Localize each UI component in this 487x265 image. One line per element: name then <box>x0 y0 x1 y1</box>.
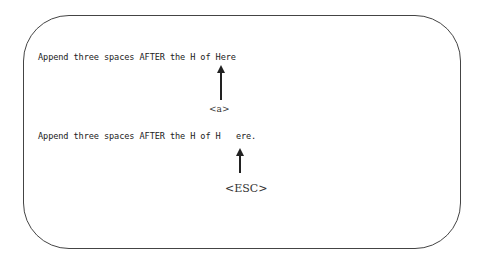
exit-key-label: <ESC> <box>225 182 267 195</box>
up-arrow-icon <box>220 72 222 100</box>
up-arrow-icon <box>239 155 241 173</box>
command-key-label: <a> <box>209 104 229 114</box>
after-text-line: Append three spaces AFTER the H of H ere… <box>38 131 256 141</box>
before-text-line: Append three spaces AFTER the H of Here <box>38 52 236 62</box>
